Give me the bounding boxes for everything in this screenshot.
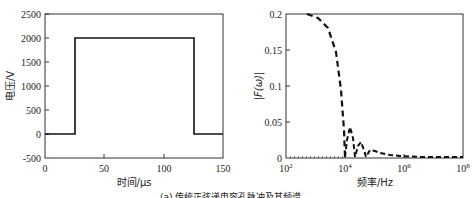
right-ytick: 0.2 [270,9,283,20]
figure: 2500 2000 1500 1000 500 0 -500 0 50 100 … [0,0,473,198]
right-ytick: 0.05 [265,117,283,128]
right-ylabel: |F(ω)| [253,72,265,101]
spectrum-main-lobe [307,14,345,157]
right-xtick: 104 [338,162,352,174]
left-ytick: 1000 [21,81,41,92]
pulse-line [45,38,223,134]
right-plot-frame [286,14,463,158]
spectrum-sidelobes [345,127,463,157]
left-xtick: 100 [157,163,172,174]
left-plot: 2500 2000 1500 1000 500 0 -500 0 50 100 … [4,9,231,188]
left-xlabel: 时间/μs [117,176,152,188]
right-plot: 0.2 0.15 0.1 0.05 0 102 104 106 108 频率/H… [253,9,470,188]
left-xtick: 0 [43,163,48,174]
left-ytick: 2000 [21,33,41,44]
figure-caption: (a) 传统正弦递电容孔脉冲及其频谱 [160,190,301,198]
right-ytick: 0.15 [265,45,283,56]
left-xtick: 50 [99,163,109,174]
left-plot-frame [45,14,223,158]
left-xtick: 150 [216,163,231,174]
right-ytick: 0.1 [270,81,283,92]
right-xtick: 102 [279,162,293,174]
left-ytick: 500 [26,105,41,116]
left-ytick: 0 [36,129,41,140]
left-ytick: 1500 [21,57,41,68]
left-ytick: -500 [23,153,41,164]
right-xtick: 106 [397,162,411,174]
right-xtick: 108 [456,162,470,174]
right-xlabel: 频率/Hz [357,176,393,188]
left-ytick: 2500 [21,9,41,20]
left-ylabel: 电压/V [4,71,16,101]
